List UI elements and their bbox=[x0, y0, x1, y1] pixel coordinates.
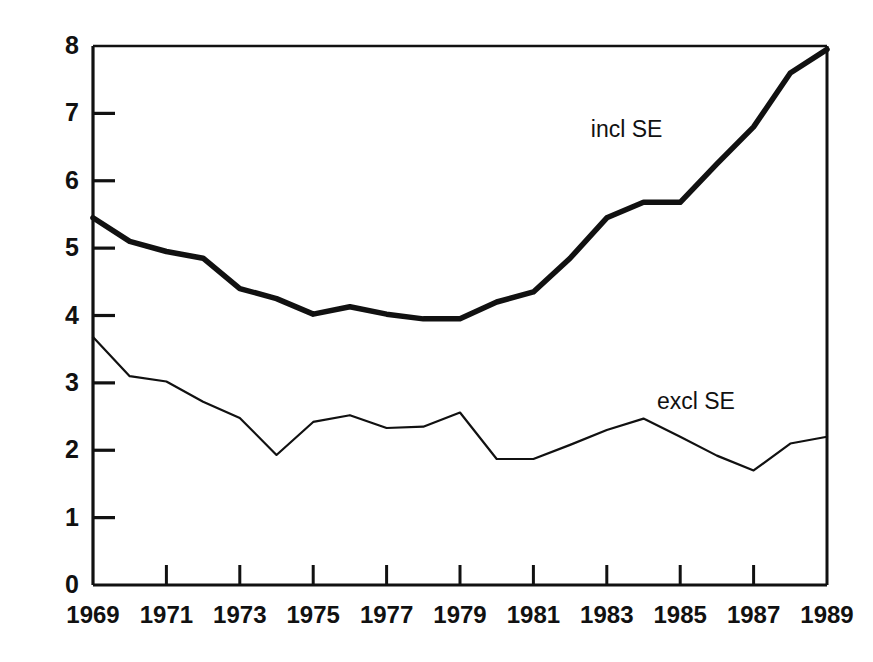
y-axis-tick-label: 5 bbox=[45, 235, 79, 260]
y-axis-tick-label: 6 bbox=[45, 168, 79, 193]
x-axis-tick-label: 1985 bbox=[642, 603, 718, 627]
series-label-excl-se: excl SE bbox=[657, 390, 735, 413]
x-axis-tick-label: 1981 bbox=[495, 603, 571, 627]
y-axis-tick-label: 1 bbox=[45, 505, 79, 530]
series-label-incl-se: incl SE bbox=[591, 118, 663, 141]
y-axis-tick-label: 8 bbox=[45, 33, 79, 58]
x-axis-tick-label: 1973 bbox=[202, 603, 278, 627]
y-axis-tick-label: 2 bbox=[45, 437, 79, 462]
x-axis-tick-label: 1987 bbox=[716, 603, 792, 627]
plot-frame bbox=[93, 46, 827, 585]
axis-ticks bbox=[93, 113, 754, 585]
y-axis-tick-label: 0 bbox=[45, 572, 79, 597]
x-axis-tick-label: 1969 bbox=[55, 603, 131, 627]
x-axis-tick-label: 1975 bbox=[275, 603, 351, 627]
x-axis-tick-label: 1989 bbox=[789, 603, 865, 627]
x-axis-tick-label: 1979 bbox=[422, 603, 498, 627]
line-chart: 012345678 196919711973197519771979198119… bbox=[0, 0, 873, 662]
y-axis-tick-label: 3 bbox=[45, 370, 79, 395]
x-axis-tick-label: 1971 bbox=[128, 603, 204, 627]
series-line-incl-se bbox=[93, 49, 827, 319]
plot-area bbox=[0, 0, 873, 662]
x-axis-tick-label: 1983 bbox=[569, 603, 645, 627]
y-axis-tick-label: 7 bbox=[45, 100, 79, 125]
y-axis-tick-label: 4 bbox=[45, 303, 79, 328]
x-axis-tick-label: 1977 bbox=[349, 603, 425, 627]
